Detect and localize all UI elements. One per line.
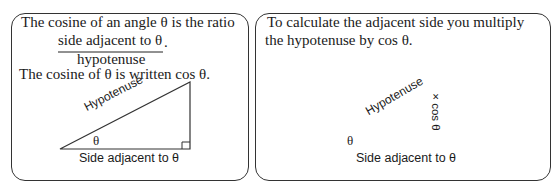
left-base-label: Side adjacent to θ <box>79 151 179 165</box>
left-angle-label: θ <box>93 133 99 149</box>
right-base-label: Side adjacent to θ <box>356 151 456 165</box>
arrow-label-cos-theta: × cos θ <box>430 90 442 134</box>
right-line1: To calculate the adjacent side you multi… <box>267 14 524 31</box>
right-angle-label: θ <box>347 133 353 149</box>
left-right-angle-mark <box>182 142 190 149</box>
right-line2: the hypotenuse by cos θ. <box>265 32 413 49</box>
